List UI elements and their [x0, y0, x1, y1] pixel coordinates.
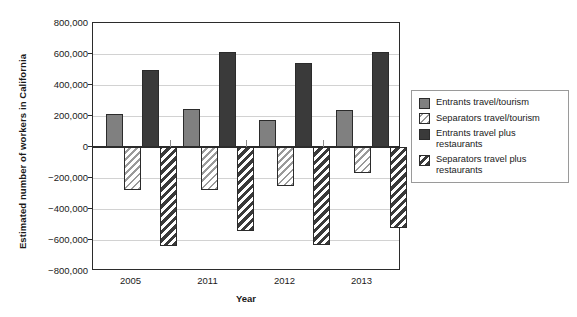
- y-axis-tick-label: 0: [22, 141, 88, 152]
- y-axis-tick-label: −600,000: [22, 234, 88, 245]
- legend-swatch-icon: [419, 129, 430, 140]
- bar: [372, 52, 389, 147]
- bar-chart-figure: Estimated number of workers in Californi…: [0, 0, 577, 317]
- y-axis-tick-label: −800,000: [22, 265, 88, 276]
- bar: [277, 147, 294, 186]
- bar-group: [246, 23, 323, 269]
- legend-item: Separators travel/tourism: [419, 113, 562, 125]
- bar: [354, 147, 371, 173]
- legend-item: Entrants travel plus restaurants: [419, 128, 562, 150]
- legend-item-label: Entrants travel/tourism: [436, 97, 529, 108]
- legend-item: Entrants travel/tourism: [419, 97, 562, 109]
- legend-swatch-icon: [419, 113, 430, 124]
- y-axis-tick-labels: 800,000600,000400,000200,0000−200,000−40…: [0, 22, 88, 270]
- y-axis-tick-label: 600,000: [22, 48, 88, 59]
- y-axis-tick-label: −200,000: [22, 172, 88, 183]
- y-axis-tick-label: −400,000: [22, 203, 88, 214]
- bar: [124, 147, 141, 190]
- chart-legend: Entrants travel/tourismSeparators travel…: [411, 90, 569, 183]
- x-axis-title: Year: [92, 293, 400, 304]
- legend-item-label: Separators travel plus restaurants: [436, 154, 562, 176]
- y-axis-tick-label: 400,000: [22, 79, 88, 90]
- x-axis-tick-label: 2012: [250, 275, 320, 286]
- group-separator-tick: [246, 23, 247, 269]
- bar: [106, 114, 123, 147]
- bar: [201, 147, 218, 190]
- bar-group: [93, 23, 170, 269]
- bar-group: [323, 23, 400, 269]
- plot-area: [92, 22, 400, 270]
- bar: [390, 147, 407, 228]
- bar: [259, 120, 276, 147]
- bar-groups: [93, 23, 399, 269]
- bar: [219, 52, 236, 147]
- y-axis-tick-label: 200,000: [22, 110, 88, 121]
- group-separator-tick: [170, 23, 171, 269]
- x-axis-tick-label: 2005: [96, 275, 166, 286]
- bar: [142, 70, 159, 148]
- legend-item: Separators travel plus restaurants: [419, 154, 562, 176]
- x-axis-tick-label: 2013: [327, 275, 397, 286]
- bar: [336, 110, 353, 147]
- bar: [183, 109, 200, 147]
- bar: [295, 63, 312, 147]
- legend-swatch-icon: [419, 155, 430, 166]
- legend-item-label: Entrants travel plus restaurants: [436, 128, 562, 150]
- group-separator-tick: [323, 23, 324, 269]
- legend-item-label: Separators travel/tourism: [436, 113, 540, 124]
- legend-swatch-icon: [419, 98, 430, 109]
- x-axis-tick-label: 2011: [173, 275, 243, 286]
- bar-group: [170, 23, 247, 269]
- y-axis-tick-label: 800,000: [22, 17, 88, 28]
